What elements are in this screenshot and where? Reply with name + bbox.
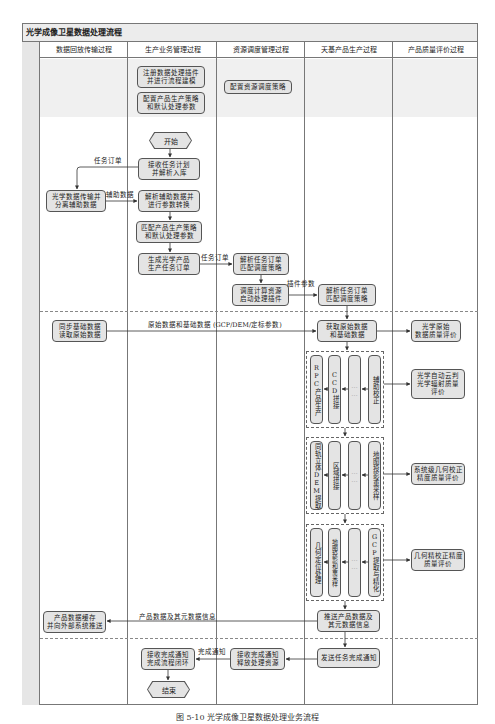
node-schedule-resource: 调度计算资源 启动处理插件 bbox=[232, 284, 289, 306]
node-dem-extraction: 同轨立体DEM提取 bbox=[310, 441, 323, 510]
node-cache-product: 产品数据缓存 并向外部系统推送 bbox=[43, 611, 106, 633]
node-raw-quality: 光学原始 数据质量评价 bbox=[411, 320, 461, 342]
node-gen-order: 生成光学产品 生产任务订单 bbox=[138, 253, 200, 275]
node-geometric-quality: 系统级几何校正 精度质量评价 bbox=[411, 463, 465, 485]
left-stripe bbox=[22, 42, 40, 705]
node-radiometric-quality: 光学自动云判 光学辐射质量 评价 bbox=[411, 369, 465, 399]
node-release-resource: 接收完成通知 释放处理资源 bbox=[230, 648, 285, 670]
phase-divider-1 bbox=[40, 311, 478, 312]
node-aux-correction: 辅助校正 bbox=[368, 355, 381, 424]
edge-label-plugin-params: 插件参数 bbox=[287, 278, 315, 288]
node-ellipsis-3: …… bbox=[348, 528, 361, 597]
lane-header-business: 生产业务管理过程 bbox=[128, 42, 217, 58]
lane-header-quality: 产品质量评价过程 bbox=[393, 42, 478, 58]
node-register-plugin: 注册数据处理插件 并进行流程建模 bbox=[137, 66, 205, 88]
node-rpc-production: RPC产品生产 bbox=[310, 355, 323, 424]
node-region-mosaic: 区域拼接 bbox=[328, 441, 341, 510]
lane-resource bbox=[217, 42, 305, 705]
lane-header-resource: 资源调度管理过程 bbox=[217, 42, 305, 58]
figure-caption: 图 5-10 光学成像卫星数据处理业务流程 bbox=[0, 711, 495, 722]
node-separate-aux: 光学数据传输并 分离辅助数据 bbox=[46, 190, 106, 212]
node-end: 结束 bbox=[148, 682, 189, 697]
edge-label-done-notice: 完成通知 bbox=[198, 646, 226, 656]
node-parse-order-resource: 解析任务订单 匹配调度策略 bbox=[233, 253, 289, 275]
node-config-resource: 配置资源调度策略 bbox=[224, 80, 292, 94]
node-receive-plan: 接收任务计划 并解析入库 bbox=[138, 158, 200, 180]
node-start: 开始 bbox=[150, 133, 191, 148]
node-config-strategy: 配置产品生产策略 和默认处理参数 bbox=[137, 92, 205, 114]
node-projection-resample: 地图投影和重采样 bbox=[328, 528, 341, 597]
node-ellipsis-2: …… bbox=[348, 441, 361, 510]
node-parse-aux: 解析辅助数据并 进行参数转换 bbox=[138, 190, 200, 212]
node-match-strategy: 匹配产品生产策略 和默认处理参数 bbox=[136, 221, 202, 243]
edge-label-task-order-1: 任务订单 bbox=[94, 155, 122, 165]
node-map-resample: 地图投影重采样 bbox=[368, 441, 381, 510]
lane-header-production: 天基产品生产过程 bbox=[305, 42, 393, 58]
node-ccd-mosaic: CCD拼接 bbox=[328, 355, 341, 424]
diagram-title: 光学成像卫星数据处理流程 bbox=[22, 23, 478, 42]
node-precision-quality: 几何精校正精度 质量评价 bbox=[411, 549, 465, 571]
lane-header-transfer: 数据回放传输过程 bbox=[40, 42, 128, 58]
edge-label-aux-data: 辅助数据 bbox=[106, 189, 134, 199]
lane-transfer bbox=[40, 42, 128, 705]
phase-divider-2 bbox=[40, 638, 478, 639]
node-push-product: 推送产品数据及 其元数据信息 bbox=[317, 610, 380, 632]
node-geo-positioning: 几何定位处理 bbox=[310, 528, 323, 597]
node-sync-data: 同步基础数据 读取原始数据 bbox=[52, 320, 107, 342]
edge-label-task-order-2: 任务订单 bbox=[201, 252, 229, 262]
node-ellipsis-1: …… bbox=[348, 355, 361, 424]
node-gcp-extraction: GCP提取与精化 bbox=[368, 528, 381, 597]
node-get-raw: 获取原始数据 和基础数据 bbox=[317, 320, 377, 342]
edge-label-product-meta: 产品数据及其元数据信息 bbox=[139, 611, 216, 621]
node-close-loop: 接收完成通知 完成流程闭环 bbox=[141, 648, 195, 670]
node-parse-order-production: 解析任务订单 匹配调度策略 bbox=[318, 284, 376, 306]
node-send-done: 发送任务完成通知 bbox=[317, 648, 380, 668]
edge-label-raw-base: 原始数据和基础数据 (GCP/DEM/定标参数) bbox=[148, 319, 282, 329]
